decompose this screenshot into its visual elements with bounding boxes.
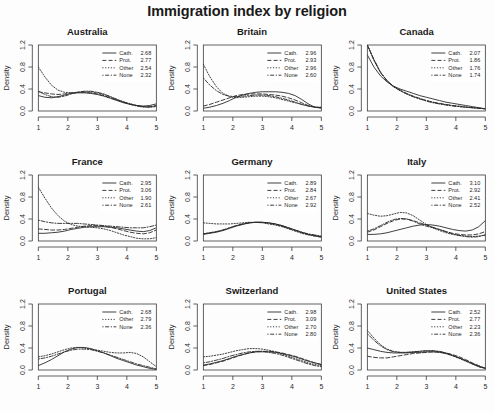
y-tick-label: 0.8 (19, 321, 26, 331)
legend-value: 2.77 (140, 57, 151, 63)
legend-value: 2.96 (305, 65, 316, 71)
legend-label: Other (449, 324, 463, 330)
x-tick-label: 4 (454, 124, 458, 131)
x-tick-label: 2 (395, 124, 399, 131)
x-tick-label: 3 (425, 254, 429, 261)
y-tick-label: 0.0 (349, 365, 356, 375)
x-tick-label: 5 (319, 124, 323, 131)
y-tick-label: 0.8 (349, 192, 356, 202)
x-tick-label: 3 (95, 383, 99, 390)
y-tick-label: 0.0 (349, 236, 356, 246)
legend-label: Prot. (449, 57, 461, 63)
panel-grid: AustraliaDensity0.00.40.81.212345Cath.2.… (0, 24, 494, 413)
legend-value: 2.07 (470, 50, 481, 56)
panel-united-states: United StatesDensity0.00.40.81.212345Cat… (329, 283, 494, 413)
legend-value: 2.67 (305, 194, 316, 200)
plot-area: Density0.00.40.81.212345Cath.2.89Prot.2.… (165, 167, 330, 271)
x-tick-label: 3 (260, 254, 264, 261)
y-tick-label: 1.2 (19, 170, 26, 180)
legend-label: None (284, 72, 297, 78)
panel-portugal: PortugalDensity0.00.40.81.212345Cath.2.6… (0, 283, 165, 413)
y-tick-label: 0.8 (349, 321, 356, 331)
curve-prot (368, 219, 486, 235)
x-tick-label: 1 (36, 383, 40, 390)
legend-value: 2.77 (470, 317, 481, 323)
x-tick-label: 5 (484, 254, 488, 261)
panel-title: Canada (329, 26, 494, 37)
x-tick-label: 1 (201, 124, 205, 131)
legend-value: 2.96 (305, 50, 316, 56)
panel-germany: GermanyDensity0.00.40.81.212345Cath.2.89… (165, 154, 330, 284)
y-axis-label: Density (332, 65, 341, 90)
panel-title: Australia (0, 26, 165, 37)
x-tick-label: 2 (231, 383, 235, 390)
legend-label: Prot. (284, 317, 296, 323)
legend-value: 2.80 (305, 332, 316, 338)
x-tick-label: 5 (154, 254, 158, 261)
legend-label: Other (284, 65, 298, 71)
plot-area: Density0.00.40.81.212345Cath.2.07Prot.1.… (329, 37, 494, 141)
x-tick-label: 2 (395, 383, 399, 390)
panel-france: FranceDensity0.00.40.81.212345Cath.2.95P… (0, 154, 165, 284)
legend-label: Other (119, 65, 133, 71)
y-tick-label: 1.2 (349, 170, 356, 180)
legend-value: 2.89 (305, 180, 316, 186)
panel-title: United States (329, 285, 494, 296)
legend-label: Cath. (449, 309, 463, 315)
y-tick-label: 0.8 (184, 62, 191, 72)
x-tick-label: 2 (395, 254, 399, 261)
legend-label: None (119, 202, 132, 208)
x-tick-label: 2 (66, 124, 70, 131)
x-tick-label: 5 (154, 124, 158, 131)
legend-label: None (284, 332, 297, 338)
y-tick-label: 0.8 (184, 321, 191, 331)
x-tick-label: 2 (66, 383, 70, 390)
y-tick-label: 0.0 (184, 106, 191, 116)
x-tick-label: 4 (125, 383, 129, 390)
y-axis-label: Density (167, 195, 176, 220)
legend-label: Prot. (284, 187, 296, 193)
curve-cath (203, 352, 321, 365)
legend-label: None (449, 202, 462, 208)
legend-value: 2.61 (140, 202, 151, 208)
legend-value: 1.76 (470, 65, 481, 71)
legend-label: None (119, 72, 132, 78)
x-tick-label: 5 (154, 383, 158, 390)
legend-value: 2.32 (140, 72, 151, 78)
plot-area: Density0.00.40.81.212345Cath.2.52Prot.2.… (329, 296, 494, 400)
x-tick-label: 4 (125, 124, 129, 131)
legend-value: 2.84 (305, 187, 316, 193)
legend-value: 2.68 (140, 309, 151, 315)
y-tick-label: 0.4 (19, 343, 26, 353)
plot-area: Density0.00.40.81.212345Cath.2.98Prot.3.… (165, 296, 330, 400)
x-tick-label: 1 (366, 383, 370, 390)
plot-area: Density0.00.40.81.212345Cath.2.95Prot.3.… (0, 167, 165, 271)
panel-title: Switzerland (165, 285, 330, 296)
legend-value: 1.90 (140, 194, 151, 200)
panel-title: France (0, 156, 165, 167)
y-axis-label: Density (167, 65, 176, 90)
y-tick-label: 0.0 (19, 106, 26, 116)
x-tick-label: 4 (290, 124, 294, 131)
y-axis-label: Density (332, 325, 341, 350)
panel-canada: CanadaDensity0.00.40.81.212345Cath.2.07P… (329, 24, 494, 154)
legend-value: 2.52 (470, 309, 481, 315)
panel-title: Germany (165, 156, 330, 167)
legend-value: 2.93 (305, 57, 316, 63)
legend-label: Cath. (119, 180, 133, 186)
plot-area: Density0.00.40.81.212345Cath.3.10Prot.2.… (329, 167, 494, 271)
panel-title: Britain (165, 26, 330, 37)
y-tick-label: 1.2 (349, 40, 356, 50)
page-title: Immigration index by religion (0, 3, 494, 19)
legend-label: Cath. (119, 50, 133, 56)
y-tick-label: 0.4 (349, 343, 356, 353)
legend-label: Cath. (119, 309, 133, 315)
legend-value: 3.06 (140, 187, 151, 193)
legend-label: Cath. (284, 180, 298, 186)
x-tick-label: 3 (95, 254, 99, 261)
y-tick-label: 0.0 (349, 106, 356, 116)
y-tick-label: 0.8 (19, 62, 26, 72)
legend-value: 2.23 (470, 324, 481, 330)
legend-label: Other (449, 65, 463, 71)
x-tick-label: 3 (425, 383, 429, 390)
